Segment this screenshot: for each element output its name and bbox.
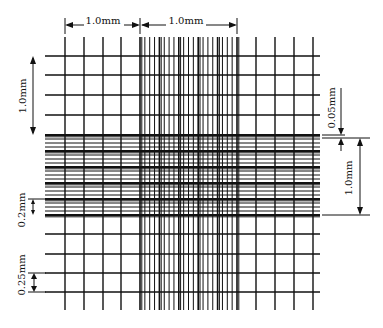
arrow-down-icon bbox=[338, 128, 344, 135]
arrow-right-icon bbox=[132, 22, 140, 28]
dimension-left-height: 1.0mm bbox=[17, 56, 36, 135]
label-left-small: 0.2mm bbox=[16, 192, 27, 227]
label-left-bottom: 0.25mm bbox=[16, 254, 27, 296]
arrow-down-icon bbox=[30, 127, 36, 135]
dimension-top-center: 1.0mm bbox=[141, 14, 237, 34]
arrow-left-icon bbox=[65, 22, 73, 28]
hemocytometer-grid-diagram: 1.0mm 1.0mm 1.0mm 0.2mm 0.25mm bbox=[0, 0, 383, 328]
label-right-height: 1.0mm bbox=[343, 160, 354, 195]
arrow-down-icon bbox=[357, 207, 363, 215]
arrow-down-icon bbox=[31, 210, 35, 215]
dimension-right-small: 0.05mm bbox=[322, 87, 370, 151]
arrow-up-icon bbox=[338, 138, 344, 145]
arrow-up-icon bbox=[31, 199, 35, 204]
grid-lines bbox=[45, 37, 320, 310]
arrow-left-icon bbox=[141, 22, 149, 28]
label-top-left-width: 1.0mm bbox=[86, 15, 121, 26]
label-right-small: 0.05mm bbox=[326, 87, 337, 129]
arrow-right-icon bbox=[229, 22, 237, 28]
dimension-right-height: 1.0mm bbox=[322, 138, 370, 215]
arrow-up-icon bbox=[30, 56, 36, 64]
label-top-center-width: 1.0mm bbox=[169, 15, 204, 26]
arrow-up-icon bbox=[31, 273, 37, 279]
dimension-left-small: 0.2mm bbox=[16, 192, 46, 227]
dimension-top-left: 1.0mm bbox=[65, 14, 140, 34]
label-left-height: 1.0mm bbox=[17, 78, 28, 113]
arrow-down-icon bbox=[31, 286, 37, 292]
dimension-left-bottom: 0.25mm bbox=[16, 254, 46, 296]
arrow-up-icon bbox=[357, 138, 363, 146]
